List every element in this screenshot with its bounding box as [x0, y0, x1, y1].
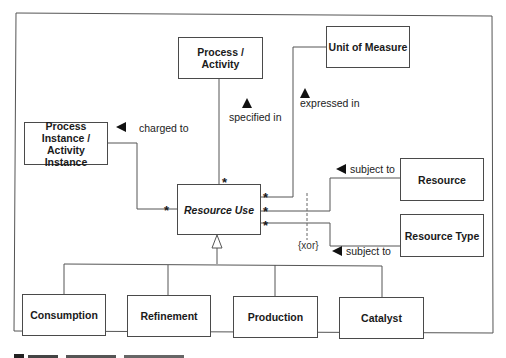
assoc-label-subject-to-resource-type: subject to	[346, 245, 391, 257]
class-label: Resource Type	[405, 230, 480, 242]
direction-left-icon	[336, 164, 346, 174]
generalization-arrow	[212, 235, 222, 248]
multiplicity-star: *	[263, 221, 268, 231]
assoc-label-specified-in: specified in	[229, 111, 282, 123]
multiplicity-star: *	[263, 207, 268, 217]
class-refinement: Refinement	[127, 295, 211, 337]
xor-constraint: {xor}	[298, 240, 319, 251]
direction-left-icon	[116, 122, 126, 132]
multiplicity-star: *	[164, 206, 169, 216]
multiplicity-star: *	[263, 193, 268, 203]
assoc-label-expressed-in: expressed in	[300, 97, 360, 109]
class-label: Refinement	[140, 310, 197, 322]
assoc-label-charged-to: charged to	[139, 122, 189, 134]
class-process-instance: Process Instance / Activity Instance	[24, 122, 108, 165]
class-catalyst: Catalyst	[339, 297, 424, 339]
multiplicity-star: *	[222, 178, 227, 188]
class-label: Process Instance / Activity Instance	[26, 120, 106, 168]
class-label: Resource Use	[184, 204, 254, 216]
direction-up-icon	[242, 98, 252, 108]
class-unit-of-measure: Unit of Measure	[326, 26, 410, 68]
class-resource: Resource	[400, 158, 484, 201]
class-process-activity: Process / Activity	[178, 37, 263, 79]
class-label: Resource	[418, 174, 466, 186]
class-consumption: Consumption	[22, 294, 106, 336]
direction-left-icon	[332, 246, 342, 256]
class-label: Consumption	[30, 309, 98, 321]
class-label: Process / Activity	[196, 46, 246, 70]
class-production: Production	[233, 296, 318, 338]
class-label: Production	[248, 311, 303, 323]
assoc-label-subject-to-resource: subject to	[350, 163, 395, 175]
class-resource-use: Resource Use	[177, 184, 261, 235]
class-resource-type: Resource Type	[400, 214, 484, 257]
figure-caption-cutoff	[14, 352, 214, 358]
class-label: Catalyst	[361, 312, 402, 324]
class-label: Unit of Measure	[329, 41, 408, 53]
